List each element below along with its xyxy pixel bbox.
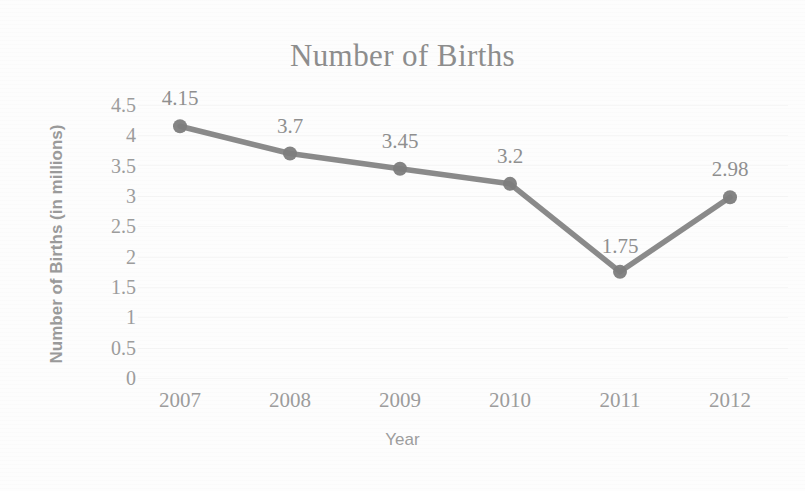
data-point-label: 4.15 [135,86,225,111]
x-axis-title: Year [0,430,805,450]
plot-area [0,0,805,491]
x-axis-tick-label: 2011 [575,388,665,413]
x-axis-tick-label: 2012 [685,388,775,413]
data-point-marker [283,147,297,161]
data-point-label: 3.2 [465,144,555,169]
x-axis-tick-label: 2007 [135,388,225,413]
data-point-label: 1.75 [575,234,665,259]
data-point-marker [723,190,737,204]
x-axis-tick-label: 2009 [355,388,445,413]
data-point-marker [613,265,627,279]
data-point-label: 2.98 [685,157,775,182]
data-point-marker [393,162,407,176]
x-axis-tick-label: 2010 [465,388,555,413]
data-point-label: 3.7 [245,114,335,139]
data-point-marker [503,177,517,191]
data-point-marker [173,119,187,133]
line-series-svg [0,0,805,491]
data-point-label: 3.45 [355,129,445,154]
chart-screenshot: Number of Births Number of Births (in mi… [0,0,805,491]
x-axis-tick-label: 2008 [245,388,335,413]
